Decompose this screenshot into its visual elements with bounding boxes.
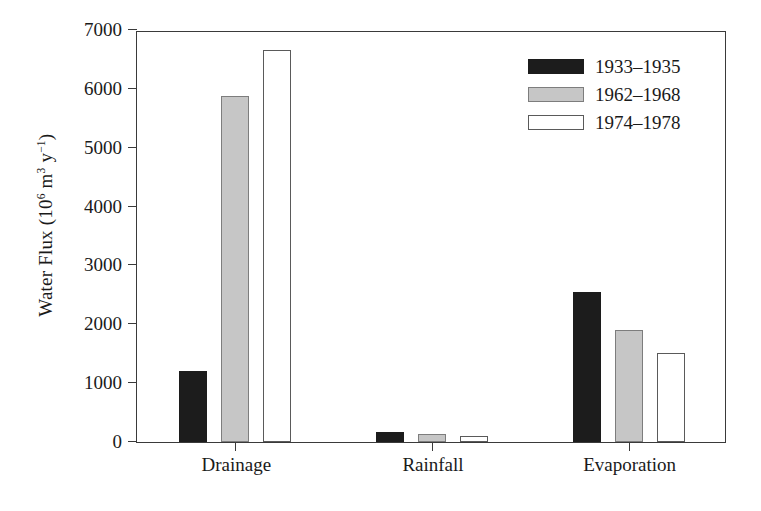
legend-item: 1974–1978 bbox=[528, 108, 681, 136]
y-axis-tick-label: 0 bbox=[113, 432, 123, 451]
legend-label: 1933–1935 bbox=[595, 57, 681, 76]
y-axis-title-exp-10: 6 bbox=[35, 193, 47, 199]
bar bbox=[657, 353, 685, 442]
y-axis-tick: 1000 bbox=[128, 382, 137, 383]
bar bbox=[573, 292, 601, 442]
legend-label: 1974–1978 bbox=[595, 113, 681, 132]
y-axis-title-mid: m bbox=[35, 173, 56, 193]
y-axis-tick-label: 5000 bbox=[84, 138, 122, 157]
bar bbox=[263, 50, 291, 442]
legend-swatch bbox=[528, 59, 584, 74]
y-axis-tick-label: 7000 bbox=[84, 20, 122, 39]
y-axis-tick: 6000 bbox=[128, 88, 137, 89]
y-axis-title: Water Flux (106 m3 y−1) bbox=[35, 75, 57, 375]
y-axis-title-tail: ) bbox=[35, 134, 56, 141]
legend-item: 1962–1968 bbox=[528, 80, 681, 108]
x-axis-tick: Drainage bbox=[235, 442, 236, 451]
x-axis-category-label: Rainfall bbox=[402, 455, 463, 474]
legend-label: 1962–1968 bbox=[595, 85, 681, 104]
y-axis-tick-label: 3000 bbox=[84, 256, 122, 275]
y-axis-title-lead: Water Flux (10 bbox=[35, 199, 56, 316]
y-axis-tick-label: 1000 bbox=[84, 373, 122, 392]
x-axis-category-label: Evaporation bbox=[583, 455, 676, 474]
bar bbox=[460, 436, 488, 442]
y-axis-tick: 0 bbox=[128, 441, 137, 442]
legend-swatch bbox=[528, 87, 584, 102]
y-axis-title-exp-m: 3 bbox=[35, 167, 47, 173]
y-axis-tick-label: 6000 bbox=[84, 79, 122, 98]
bar bbox=[376, 432, 404, 442]
bar bbox=[179, 371, 207, 442]
y-axis-tick: 2000 bbox=[128, 323, 137, 324]
y-axis-tick: 3000 bbox=[128, 264, 137, 265]
x-axis-tick: Evaporation bbox=[629, 442, 630, 451]
bar bbox=[221, 96, 249, 442]
x-axis-category-label: Drainage bbox=[202, 455, 272, 474]
y-axis-tick-label: 2000 bbox=[84, 314, 122, 333]
legend: 1933–19351962–19681974–1978 bbox=[528, 52, 681, 136]
x-axis-tick: Rainfall bbox=[432, 442, 433, 451]
bar bbox=[418, 434, 446, 442]
y-axis-tick: 7000 bbox=[128, 29, 137, 30]
y-axis-tick: 5000 bbox=[128, 147, 137, 148]
bar-chart-figure: Water Flux (106 m3 y−1) 0100020003000400… bbox=[0, 0, 761, 511]
legend-item: 1933–1935 bbox=[528, 52, 681, 80]
legend-swatch bbox=[528, 115, 584, 130]
y-axis-title-exp-y: −1 bbox=[35, 140, 47, 153]
y-axis-tick: 4000 bbox=[128, 206, 137, 207]
bar bbox=[615, 330, 643, 442]
y-axis-tick-label: 4000 bbox=[84, 197, 122, 216]
y-axis-title-mid2: y bbox=[35, 153, 56, 168]
